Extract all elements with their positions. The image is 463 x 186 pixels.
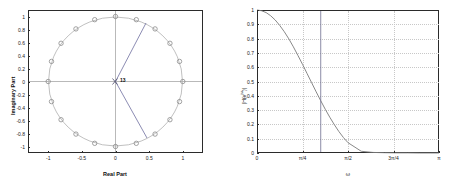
y-tick-label: 0.6: [240, 65, 254, 70]
y-tick-mark: [28, 30, 30, 31]
x-tick-label: -1: [46, 156, 50, 161]
x-tick-label: 3π/4: [388, 156, 398, 161]
magnitude-xlabel: ω: [346, 171, 350, 177]
y-tick-mark: [257, 124, 259, 125]
y-tick-label: 0.3: [240, 108, 254, 113]
y-tick-label: 0.9: [240, 22, 254, 27]
pole-zero-xlabel: Real Part: [103, 171, 127, 177]
y-tick-mark: [28, 82, 30, 83]
sector-line-lower: [116, 82, 148, 139]
y-tick-label: 1: [10, 14, 25, 19]
y-tick-label: 0.4: [10, 53, 25, 58]
sector-line-upper: [116, 23, 147, 82]
x-tick-label: 1: [181, 156, 184, 161]
y-tick-mark: [257, 53, 259, 54]
magnitude-response-panel: 0π/4π/23π/4π 00.10.20.30.40.50.60.70.80.…: [232, 0, 463, 186]
pole-marker-group: [113, 79, 118, 85]
y-tick-label: -0.8: [10, 131, 25, 136]
y-tick-label: 1: [240, 8, 254, 13]
y-tick-mark: [28, 134, 30, 135]
x-tick-mark: [116, 151, 117, 153]
x-tick-label: 0: [114, 156, 117, 161]
y-tick-mark: [28, 56, 30, 57]
y-tick-mark: [28, 17, 30, 18]
y-tick-label: 0.5: [240, 79, 254, 84]
x-tick-mark: [439, 151, 440, 153]
x-tick-label: -0.5: [77, 156, 86, 161]
x-tick-label: π/2: [344, 156, 352, 161]
y-tick-label: 0.8: [240, 36, 254, 41]
y-tick-mark: [28, 95, 30, 96]
x-tick-label: π: [437, 156, 440, 161]
y-tick-label: 0.6: [10, 40, 25, 45]
x-tick-mark: [348, 151, 349, 153]
x-tick-mark: [149, 151, 150, 153]
x-tick-mark: [82, 151, 83, 153]
x-tick-mark: [183, 151, 184, 153]
y-tick-mark: [257, 96, 259, 97]
y-tick-mark: [28, 121, 30, 122]
x-tick-mark: [394, 151, 395, 153]
y-tick-mark: [257, 39, 259, 40]
x-tick-label: 0: [256, 156, 259, 161]
x-tick-label: 0.5: [146, 156, 153, 161]
y-tick-mark: [257, 139, 259, 140]
y-tick-mark: [257, 24, 259, 25]
y-tick-label: 0.7: [240, 50, 254, 55]
x-tick-mark: [303, 151, 304, 153]
matlab-figure: 13 -1-0.500.51 -1-0.8-0.6-0.4-0.200.20.4…: [0, 0, 463, 186]
pole-zero-panel: 13 -1-0.500.51 -1-0.8-0.6-0.4-0.200.20.4…: [0, 0, 232, 186]
y-tick-mark: [28, 147, 30, 148]
y-tick-label: 0.1: [240, 136, 254, 141]
y-tick-label: -1: [10, 144, 25, 149]
zero-marker: [113, 144, 117, 148]
y-tick-label: 0.2: [10, 66, 25, 71]
y-tick-mark: [28, 43, 30, 44]
y-tick-mark: [257, 67, 259, 68]
magnitude-ylabel-text: |H(ejω)|: [241, 88, 247, 104]
x-tick-label: π/4: [299, 156, 307, 161]
magnitude-ylabel: |H(ejω)|: [240, 88, 247, 104]
magnitude-curve: [257, 10, 439, 153]
y-tick-mark: [257, 82, 259, 83]
x-tick-mark: [48, 151, 49, 153]
pole-zero-ylabel: Imaginary Part: [10, 77, 16, 115]
y-tick-label: 0.2: [240, 122, 254, 127]
zero-marker: [113, 14, 117, 18]
y-tick-label: 0.8: [10, 27, 25, 32]
y-tick-label: 0: [240, 151, 254, 156]
pole-multiplicity-label: 13: [120, 77, 126, 83]
y-tick-mark: [257, 153, 259, 154]
y-tick-label: -0.6: [10, 118, 25, 123]
y-tick-mark: [28, 69, 30, 70]
y-tick-mark: [257, 110, 259, 111]
y-tick-mark: [257, 10, 259, 11]
y-tick-mark: [28, 108, 30, 109]
